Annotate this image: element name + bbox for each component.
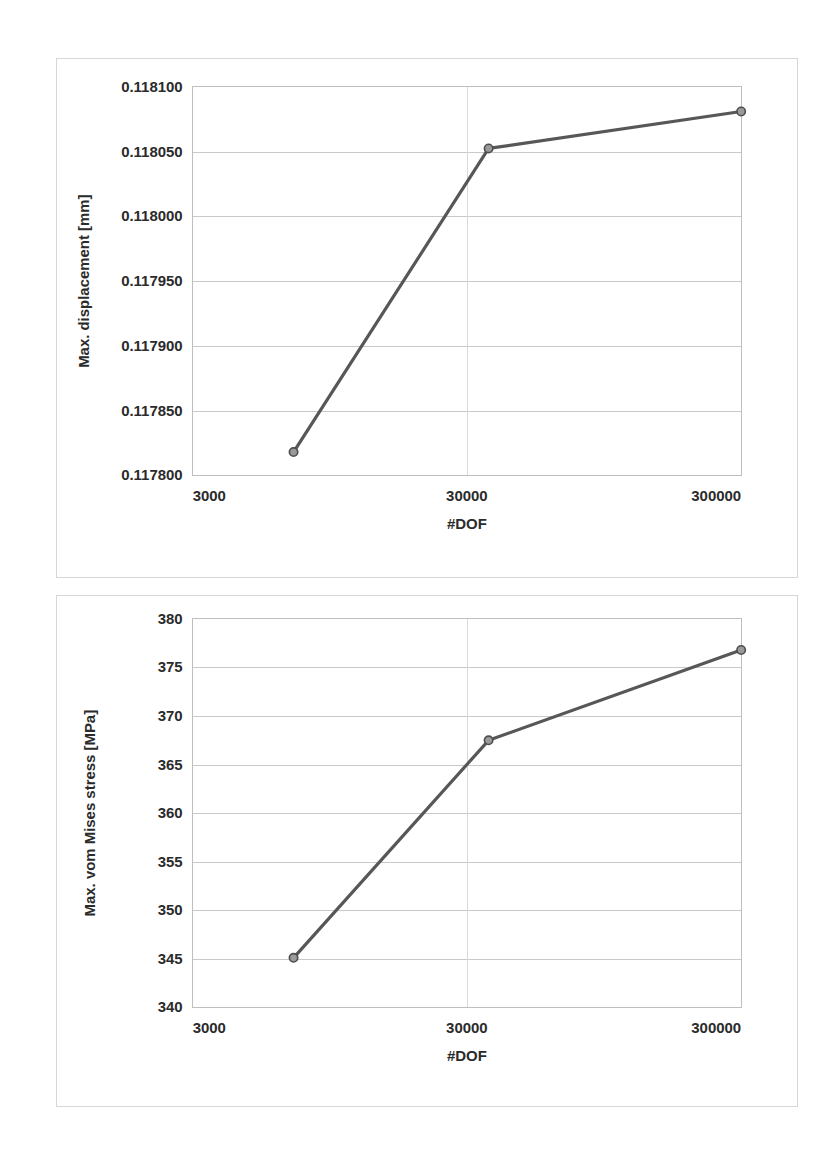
x-axis-title: #DOF — [447, 1047, 487, 1064]
y-axis-tick-label: 370 — [158, 707, 183, 724]
stress-plot-group: 3403453503553603653703753803000300003000… — [81, 610, 745, 1064]
y-axis-title: Max. displacement [mm] — [75, 194, 92, 367]
data-point-marker — [737, 107, 745, 115]
x-axis-tick-label: 30000 — [446, 1019, 488, 1036]
page-root: 0.1178000.1178500.1179000.1179500.118000… — [0, 0, 831, 1166]
y-axis-tick-label: 360 — [158, 804, 183, 821]
max-von-mises-stress-convergence-chart: 3403453503553603653703753803000300003000… — [56, 595, 798, 1107]
displacement-chart-svg: 0.1178000.1178500.1179000.1179500.118000… — [57, 59, 797, 577]
x-axis-title: #DOF — [447, 515, 487, 532]
x-axis-tick-label: 300000 — [691, 1019, 741, 1036]
y-axis-tick-label: 375 — [158, 658, 183, 675]
y-axis-tick-label: 345 — [158, 950, 183, 967]
displacement-plot-group: 0.1178000.1178500.1179000.1179500.118000… — [75, 78, 745, 532]
x-axis-tick-label: 30000 — [446, 487, 488, 504]
y-axis-tick-label: 340 — [158, 998, 183, 1015]
y-axis-tick-label: 365 — [158, 756, 183, 773]
y-axis-tick-label: 0.118050 — [121, 143, 183, 160]
x-axis-tick-label: 3000 — [193, 1019, 226, 1036]
y-axis-tick-label: 380 — [158, 610, 183, 627]
data-point-marker — [484, 144, 492, 152]
data-point-marker — [289, 954, 297, 962]
y-axis-tick-label: 0.118000 — [121, 207, 183, 224]
y-axis-title: Max. vom Mises stress [MPa] — [81, 710, 98, 917]
y-axis-tick-label: 355 — [158, 853, 183, 870]
x-axis-tick-label: 3000 — [193, 487, 226, 504]
max-displacement-convergence-chart: 0.1178000.1178500.1179000.1179500.118000… — [56, 58, 798, 578]
data-point-marker — [737, 646, 745, 654]
y-axis-tick-label: 0.118100 — [121, 78, 183, 95]
x-axis-tick-label: 300000 — [691, 487, 741, 504]
y-axis-tick-label: 0.117950 — [121, 272, 183, 289]
y-axis-tick-label: 0.117850 — [121, 402, 183, 419]
y-axis-tick-label: 0.117800 — [121, 466, 183, 483]
data-point-marker — [484, 736, 492, 744]
stress-chart-svg: 3403453503553603653703753803000300003000… — [57, 596, 797, 1106]
y-axis-tick-label: 350 — [158, 901, 183, 918]
y-axis-tick-label: 0.117900 — [121, 337, 183, 354]
data-point-marker — [289, 448, 297, 456]
